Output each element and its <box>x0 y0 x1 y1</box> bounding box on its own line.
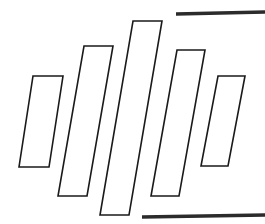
bar-chart-figure <box>0 0 265 224</box>
bottom-rule-line <box>142 215 265 217</box>
chart-canvas <box>0 0 265 224</box>
top-rule-line <box>176 12 265 14</box>
